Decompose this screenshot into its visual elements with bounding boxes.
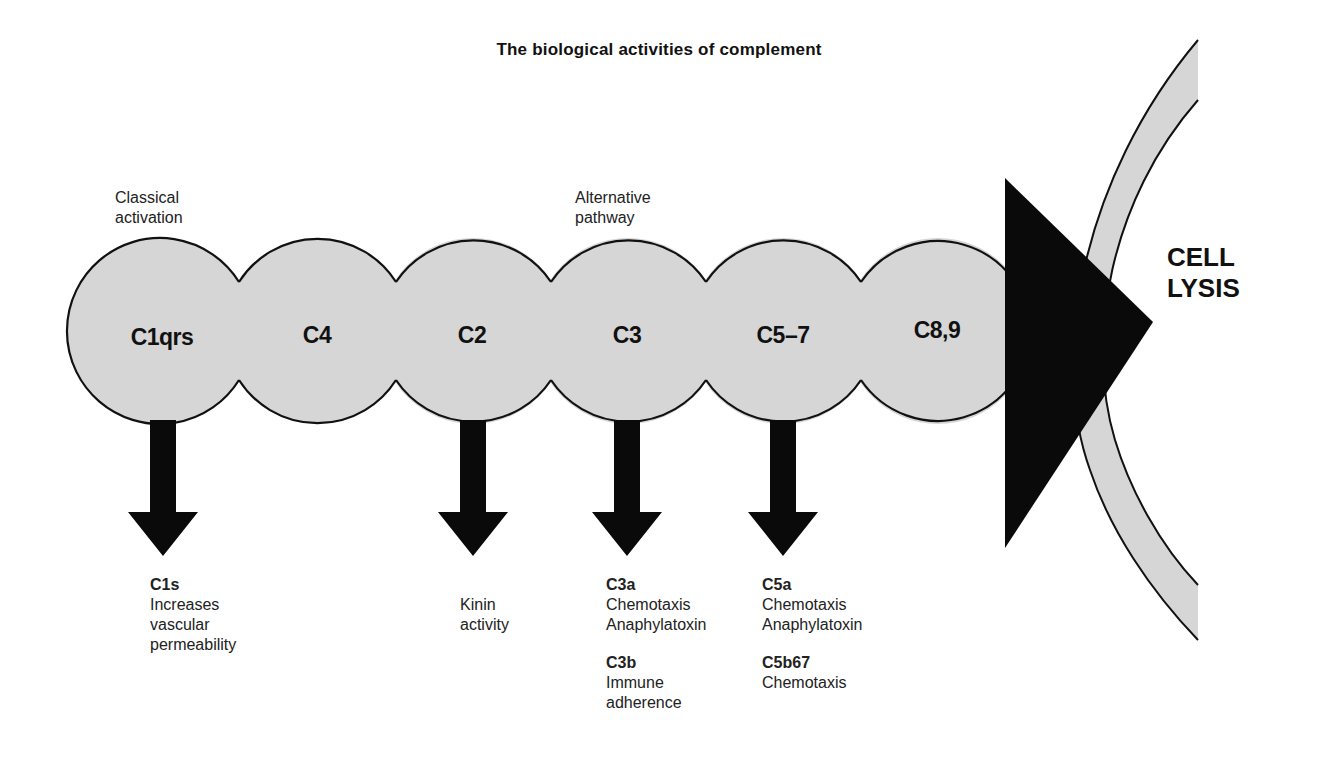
component-c4: C4: [303, 322, 331, 349]
arrow-c5: [748, 420, 818, 556]
product-name: C5b67: [762, 653, 863, 673]
product-desc: Immune adherence: [606, 673, 707, 713]
product-arrows: [128, 420, 818, 556]
product-desc: Kinin activity: [460, 595, 509, 635]
cell-lysis-label: CELL LYSIS: [1167, 242, 1240, 304]
component-c2: C2: [458, 322, 486, 349]
product-c2: Kinin activity: [460, 595, 509, 653]
product-c3: C3a Chemotaxis Anaphylatoxin C3b Immune …: [606, 575, 707, 731]
component-c3: C3: [613, 322, 641, 349]
arrow-c1: [128, 420, 198, 556]
alternative-pathway-label: Alternative pathway: [575, 188, 651, 228]
component-c8-9: C8,9: [914, 317, 961, 344]
product-desc: Increases vascular permeability: [150, 595, 236, 655]
product-desc: Chemotaxis Anaphylatoxin: [762, 595, 863, 635]
product-name: C3b: [606, 653, 707, 673]
product-c5: C5a Chemotaxis Anaphylatoxin C5b67 Chemo…: [762, 575, 863, 711]
product-name: C5a: [762, 575, 863, 595]
product-desc: Chemotaxis Anaphylatoxin: [606, 595, 707, 635]
classical-activation-label: Classical activation: [115, 188, 183, 228]
component-c5-7: C5–7: [757, 322, 810, 349]
arrow-c3: [592, 420, 662, 556]
product-name: C1s: [150, 575, 236, 595]
product-desc: Chemotaxis: [762, 673, 863, 693]
product-name: C3a: [606, 575, 707, 595]
component-c1qrs: C1qrs: [131, 324, 194, 351]
product-c1: C1s Increases vascular permeability: [150, 575, 236, 673]
arrow-c2: [438, 420, 508, 556]
component-chain: [67, 238, 1031, 424]
